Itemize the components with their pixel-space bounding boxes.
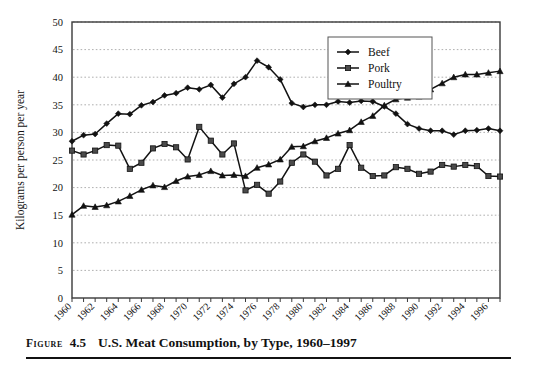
- square-marker: [243, 188, 248, 193]
- square-marker: [345, 65, 350, 70]
- square-marker: [451, 164, 456, 169]
- square-marker: [266, 191, 271, 196]
- caption-rule: [26, 357, 511, 359]
- series-beef: [69, 58, 503, 144]
- triangle-marker: [358, 119, 364, 125]
- square-marker: [289, 160, 294, 165]
- x-tick-label: 1986: [352, 301, 374, 323]
- square-marker: [301, 152, 306, 157]
- x-tick-label: 1978: [260, 301, 282, 323]
- square-marker: [497, 174, 502, 179]
- x-tick-label: 1960: [51, 301, 73, 323]
- diamond-marker: [462, 128, 468, 134]
- square-marker: [174, 145, 179, 150]
- gridlines: [73, 22, 499, 270]
- square-marker: [231, 141, 236, 146]
- diamond-marker: [150, 99, 156, 105]
- diamond-marker: [162, 93, 168, 99]
- y-tick-label: 25: [53, 155, 64, 166]
- caption-title-text: U.S. Meat Consumption, by Type, 1960–199…: [98, 335, 357, 350]
- chart-legend[interactable]: BeefPorkPoultry: [328, 37, 432, 99]
- square-marker: [347, 142, 352, 147]
- square-marker: [162, 141, 167, 146]
- legend-label-beef: Beef: [368, 46, 390, 58]
- y-tick-label: 50: [53, 17, 64, 28]
- y-axis-tick-labels: 05101520253035404550: [53, 17, 64, 304]
- square-marker: [220, 152, 225, 157]
- diamond-marker: [439, 128, 445, 134]
- x-tick-label: 1970: [167, 301, 189, 323]
- diamond-marker: [416, 126, 422, 132]
- data-series: [69, 58, 503, 217]
- square-marker: [116, 143, 121, 148]
- y-tick-label: 35: [53, 100, 64, 111]
- x-tick-label: 1976: [237, 301, 259, 323]
- square-marker: [335, 166, 340, 171]
- y-tick-label: 30: [53, 127, 64, 138]
- y-tick-label: 15: [53, 210, 64, 221]
- square-marker: [104, 142, 109, 147]
- y-tick-label: 0: [58, 293, 63, 304]
- triangle-marker: [439, 80, 445, 86]
- x-tick-label: 1980: [283, 301, 305, 323]
- caption-figure-number: 4.5: [70, 335, 86, 350]
- diamond-marker: [474, 127, 480, 133]
- square-marker: [69, 148, 74, 153]
- figure-caption-bar: Figure4.5U.S. Meat Consumption, by Type,…: [0, 331, 537, 371]
- x-tick-label: 1968: [144, 301, 166, 323]
- x-tick-label: 1966: [121, 301, 143, 323]
- square-marker: [382, 173, 387, 178]
- diamond-marker: [497, 128, 503, 134]
- diamond-marker: [173, 90, 179, 96]
- square-marker: [150, 146, 155, 151]
- diamond-marker: [324, 102, 330, 108]
- diamond-marker: [451, 132, 457, 138]
- square-marker: [254, 182, 259, 187]
- square-marker: [463, 162, 468, 167]
- square-marker: [440, 162, 445, 167]
- square-marker: [197, 124, 202, 129]
- square-marker: [93, 148, 98, 153]
- square-marker: [359, 165, 364, 170]
- square-marker: [370, 173, 375, 178]
- x-tick-label: 1984: [329, 301, 351, 323]
- square-marker: [324, 173, 329, 178]
- square-marker: [393, 165, 398, 170]
- square-marker: [474, 163, 479, 168]
- diamond-marker: [312, 102, 318, 108]
- diamond-marker: [486, 126, 492, 132]
- x-tick-label: 1990: [399, 301, 421, 323]
- diamond-marker: [196, 86, 202, 92]
- y-tick-label: 5: [58, 265, 63, 276]
- y-tick-label: 40: [53, 72, 64, 83]
- diamond-marker: [185, 85, 191, 91]
- legend-label-pork: Pork: [368, 62, 390, 74]
- triangle-marker: [208, 168, 214, 174]
- triangle-marker: [127, 193, 133, 199]
- diamond-marker: [81, 132, 87, 138]
- diamond-marker: [69, 138, 75, 144]
- series-line-beef: [72, 61, 500, 142]
- square-marker: [416, 171, 421, 176]
- x-tick-label: 1994: [445, 301, 467, 323]
- square-marker: [428, 169, 433, 174]
- x-tick-label: 1964: [98, 301, 120, 323]
- y-axis-title: Kilograms per person per year: [14, 90, 27, 230]
- x-tick-label: 1996: [468, 301, 490, 323]
- x-tick-label: 1972: [190, 301, 212, 323]
- figure-container: 05101520253035404550 1960196219641966196…: [0, 0, 537, 371]
- square-marker: [127, 166, 132, 171]
- x-axis-tick-labels: 1960196219641966196819701972197419761978…: [51, 301, 489, 323]
- square-marker: [486, 173, 491, 178]
- meat-consumption-line-chart: 05101520253035404550 1960196219641966196…: [0, 0, 537, 340]
- caption-figure-word: Figure: [26, 337, 63, 349]
- square-marker: [185, 157, 190, 162]
- square-marker: [278, 179, 283, 184]
- square-marker: [208, 138, 213, 143]
- x-tick-label: 1992: [422, 301, 444, 323]
- square-marker: [139, 160, 144, 165]
- x-tick-label: 1988: [375, 301, 397, 323]
- square-marker: [312, 159, 317, 164]
- x-tick-label: 1982: [306, 301, 328, 323]
- y-tick-label: 45: [53, 44, 64, 55]
